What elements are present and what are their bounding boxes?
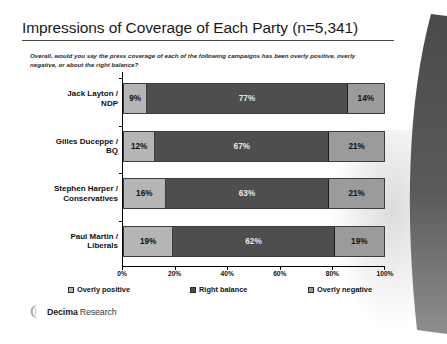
chart-legend: Overly positiveRight balanceOverly negat… [68, 285, 388, 299]
x-axis-tick-label: 20% [168, 270, 181, 277]
legend-item-1[interactable]: Right balance [190, 285, 247, 294]
y-axis-label-line: Paul Martin / [48, 232, 118, 242]
bar-row: 19%62%19% [123, 226, 385, 257]
bar-segment: 77% [147, 84, 347, 113]
bar-segment: 16% [124, 179, 166, 208]
bar-value-label: 21% [348, 189, 364, 198]
legend-swatch-icon [68, 287, 74, 293]
title-divider [22, 40, 394, 41]
x-axis-tick-labels: 0%20%40%60%80%100% [122, 270, 385, 282]
chart-question-text: Overall, would you say the press coverag… [30, 52, 378, 69]
decima-crescent-logo-icon [26, 303, 43, 320]
bar-value-label: 67% [234, 142, 250, 151]
x-axis-tick-label: 60% [273, 270, 286, 277]
footer-brand: Decima Research [26, 303, 117, 320]
bar-value-label: 77% [239, 94, 255, 103]
bar-segment: 67% [155, 132, 329, 161]
page-title: Impressions of Coverage of Each Party (n… [22, 19, 394, 37]
y-axis-label-line: BQ [48, 146, 118, 156]
y-axis-tick [119, 173, 123, 174]
bar-row: 12%67%21% [123, 131, 385, 162]
y-axis-label-3: Paul Martin /Liberals [48, 232, 118, 251]
bar-segment: 63% [166, 179, 330, 208]
brand-name: Decima [47, 307, 78, 317]
bar-segment: 9% [124, 84, 147, 113]
legend-swatch-icon [190, 287, 196, 293]
bar-value-label: 9% [129, 94, 141, 103]
bar-value-label: 14% [358, 94, 374, 103]
x-axis-tick-label: 100% [377, 270, 394, 277]
x-axis-tick-label: 0% [117, 270, 127, 277]
bar-value-label: 21% [348, 142, 364, 151]
legend-item-0[interactable]: Overly positive [68, 285, 130, 294]
bar-value-label: 19% [140, 237, 156, 246]
legend-label: Right balance [199, 285, 247, 294]
bar-value-label: 16% [136, 189, 152, 198]
y-axis-label-line: Jack Layton / [48, 89, 118, 99]
legend-item-2[interactable]: Overly negative [308, 285, 372, 294]
brand-suffix: Research [80, 307, 117, 317]
bar-segment: 62% [173, 227, 334, 256]
stacked-bar-chart: Jack Layton /NDPGilles Duceppe /BQStephe… [0, 72, 420, 272]
y-axis-label-2: Stephen Harper /Conservatives [48, 184, 118, 203]
y-axis-label-line: Stephen Harper / [48, 184, 118, 194]
x-axis-tick-label: 40% [221, 270, 234, 277]
bar-value-label: 19% [351, 237, 367, 246]
bar-value-label: 62% [245, 237, 261, 246]
y-axis-tick [119, 78, 123, 79]
y-axis-tick [119, 221, 123, 222]
y-axis-label-line: NDP [48, 99, 118, 109]
y-axis-tick [119, 126, 123, 127]
title-block: Impressions of Coverage of Each Party (n… [22, 19, 394, 41]
bar-value-label: 12% [131, 142, 147, 151]
y-axis-label-line: Gilles Duceppe / [48, 137, 118, 147]
bar-segment: 21% [329, 132, 384, 161]
bar-segment: 19% [124, 227, 173, 256]
plot-area: 9%77%14%12%67%21%16%63%21%19%62%19% [122, 72, 385, 267]
legend-label: Overly positive [77, 285, 130, 294]
x-axis-tick-label: 80% [326, 270, 339, 277]
bar-segment: 14% [348, 84, 384, 113]
y-axis-label-0: Jack Layton /NDP [48, 89, 118, 108]
bar-segment: 21% [329, 179, 384, 208]
bar-segment: 19% [335, 227, 384, 256]
bar-row: 16%63%21% [123, 178, 385, 209]
legend-swatch-icon [308, 287, 314, 293]
bar-row: 9%77%14% [123, 83, 385, 114]
bar-segment: 12% [124, 132, 155, 161]
x-axis-line [122, 266, 385, 267]
y-axis-label-1: Gilles Duceppe /BQ [48, 137, 118, 156]
legend-label: Overly negative [317, 285, 372, 294]
bar-value-label: 63% [239, 189, 255, 198]
y-axis-category-labels: Jack Layton /NDPGilles Duceppe /BQStephe… [48, 72, 118, 267]
y-axis-label-line: Conservatives [48, 194, 118, 204]
y-axis-label-line: Liberals [48, 241, 118, 251]
